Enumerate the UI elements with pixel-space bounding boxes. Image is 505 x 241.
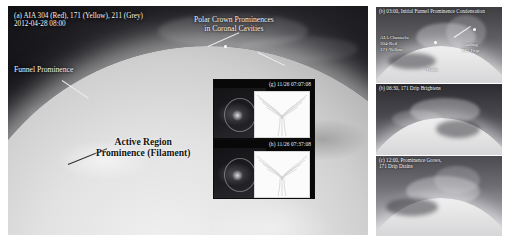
panel-label-a: (a) AIA 304 (Red), 171 (Yellow), 211 (Gr… — [14, 12, 143, 29]
prominence-core — [232, 170, 243, 181]
panel-timestamp: 2012-04-28 08:00 — [14, 20, 66, 28]
prominence-wisp — [434, 166, 480, 194]
main-panel-aia-composite: (a) AIA 304 (Red), 171 (Yellow), 211 (Gr… — [8, 6, 368, 235]
right-panel-a-title: (b) 03:00, Initial Funnel Prominence Con… — [379, 8, 485, 14]
pointer-dot — [434, 41, 437, 44]
inset-g-label: (g) 11/26 07:07:08 — [269, 81, 311, 87]
annotation-trunk: Trunk — [426, 67, 438, 73]
inset-h-field-line-diagram — [254, 151, 310, 198]
pointer-dot — [473, 28, 476, 31]
inset-h-label: (h) 11/26 07:37:08 — [269, 141, 311, 147]
inset-g-field-line-diagram — [254, 91, 310, 138]
right-panel-b-title: (b) 06:30, 171 Drip Brightens — [379, 85, 441, 91]
annotation-cooling-drip: Cooling 171 Drip — [462, 42, 480, 54]
magnetic-field-lines-svg — [255, 152, 309, 197]
right-panel-prominence-grows: (c) 12:00, Prominence Grows, 171 Drip Dr… — [375, 155, 503, 237]
right-panel-c-title: (c) 12:00, Prominence Grows, 171 Drip Dr… — [379, 157, 442, 170]
right-panel-initial-condensation: (b) 03:00, Initial Funnel Prominence Con… — [375, 6, 503, 85]
prominence-wisp — [392, 110, 442, 128]
magnetic-field-lines-svg — [255, 92, 309, 137]
right-panel-drip-brightens: (b) 06:30, 171 Drip Brightens — [375, 83, 503, 157]
annotation-active-region-prominence: Active Region Prominence (Filament) — [96, 136, 190, 159]
pointer-dot — [224, 45, 227, 48]
dark-feature — [436, 120, 480, 138]
inset-panel-h: (h) 11/26 07:37:08 — [213, 139, 315, 199]
prominence-core — [232, 110, 243, 121]
annotation-aia-channels: AIA Channels: 304-Red 171-Yellow — [380, 35, 409, 53]
inset-panel-g: (g) 11/26 07:07:08 — [213, 79, 315, 139]
dark-feature — [386, 198, 438, 216]
panel-label-a-text: (a) AIA 304 (Red), 171 (Yellow), 211 (Gr… — [14, 12, 143, 20]
annotation-polar-crown-prominences: Polar Crown Prominences in Coronal Cavit… — [194, 16, 274, 34]
solar-prominence-figure: (a) AIA 304 (Red), 171 (Yellow), 211 (Gr… — [0, 0, 505, 241]
annotation-funnel-prominence: Funnel Prominence — [14, 66, 73, 75]
